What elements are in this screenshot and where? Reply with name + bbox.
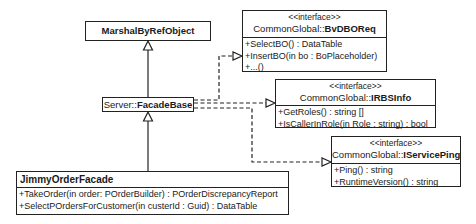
class-name: JimmyOrderFacade — [17, 172, 288, 187]
interface-iserviceping[interactable]: <<interface>> CommonGlobal::IServicePing… — [331, 136, 461, 187]
stereotype-label: <<interface>> — [243, 12, 386, 23]
interface-bvdboreq[interactable]: <<interface>> CommonGlobal::BvDBOReq +Se… — [242, 10, 387, 72]
realization-arrowhead-icon — [266, 99, 275, 107]
class-namespace: Server:: — [104, 99, 137, 111]
generalization-arrowhead-icon — [144, 41, 153, 50]
operation: +InsertBO(in bo : BoPlaceholder) — [245, 51, 384, 63]
class-marshalbyrefobject[interactable]: MarshalByRefObject — [85, 21, 211, 41]
stereotype-label: <<interface>> — [276, 81, 435, 92]
interface-header: <<interface>> CommonGlobal::IRBSInfo — [276, 80, 435, 105]
class-jimmyorderfacade[interactable]: JimmyOrderFacade +TakeOrder(in order: PO… — [16, 171, 289, 215]
operation: +RuntimeVersion() : string — [334, 177, 458, 189]
interface-irbsinfo[interactable]: <<interface>> CommonGlobal::IRBSInfo +Ge… — [275, 79, 436, 128]
class-name: MarshalByRefObject — [86, 22, 210, 40]
operation: +GetRoles() : string [] — [278, 107, 433, 119]
operations-list: +SelectBO() : DataTable +InsertBO(in bo … — [243, 37, 386, 75]
interface-name: BvDBOReq — [325, 23, 376, 34]
operation: +SelectBO() : DataTable — [245, 39, 384, 51]
interface-namespace: CommonGlobal:: — [332, 149, 403, 160]
interface-title: CommonGlobal::IServicePing — [332, 149, 460, 161]
interface-name: IServicePing — [403, 149, 460, 160]
interface-name: IRBSInfo — [371, 92, 411, 103]
interface-title: CommonGlobal::BvDBOReq — [243, 23, 386, 35]
operation: +...() — [245, 62, 384, 74]
operation: +SelectPOrdersForCustomer(in custerId : … — [19, 201, 286, 213]
generalization-arrowhead-icon — [144, 112, 153, 121]
operation: +IsCallerInRole(in Role : string) : bool — [278, 119, 433, 131]
class-title: Server::FacadeBase — [103, 98, 193, 111]
operation: +Ping() : string — [334, 165, 458, 177]
interface-namespace: CommonGlobal:: — [300, 92, 371, 103]
interface-header: <<interface>> CommonGlobal::BvDBOReq — [243, 11, 386, 37]
stereotype-label: <<interface>> — [332, 138, 460, 149]
realization-arrowhead-icon — [233, 52, 242, 60]
realization-arrowhead-icon — [322, 158, 331, 166]
operations-list: +TakeOrder(in order: POrderBuilder) : PO… — [17, 187, 288, 213]
operation: +TakeOrder(in order: POrderBuilder) : PO… — [19, 189, 286, 201]
interface-header: <<interface>> CommonGlobal::IServicePing — [332, 137, 460, 163]
realization-line-bvdboreq — [194, 56, 233, 100]
class-facadebase[interactable]: Server::FacadeBase — [102, 97, 194, 112]
operations-list: +Ping() : string +RuntimeVersion() : str… — [332, 163, 460, 189]
interface-namespace: CommonGlobal:: — [253, 23, 324, 34]
interface-title: CommonGlobal::IRBSInfo — [276, 92, 435, 104]
class-name: FacadeBase — [137, 99, 192, 111]
operations-list: +GetRoles() : string [] +IsCallerInRole(… — [276, 105, 435, 131]
